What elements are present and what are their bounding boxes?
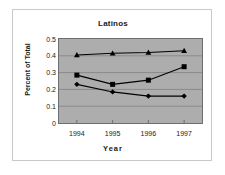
data-series-square: [74, 64, 186, 87]
series-plot: [59, 39, 202, 123]
series-line: [77, 51, 184, 55]
x-tick-label: 1997: [164, 130, 204, 137]
x-axis-label: Year: [13, 144, 213, 153]
x-tick-label: 1995: [93, 130, 133, 137]
data-point-square: [146, 78, 151, 83]
x-tick-label: 1996: [128, 130, 168, 137]
data-point-diamond: [74, 82, 79, 87]
x-axis-ticks: 1994199519961997: [58, 128, 203, 140]
chart-frame: Latinos Percent of Total 0.50.40.30.20.1…: [12, 9, 212, 161]
y-tick-label: 0.4: [30, 52, 56, 59]
x-tick-label: 1994: [57, 130, 97, 137]
data-point-square: [74, 73, 79, 78]
data-point-square: [110, 82, 115, 87]
series-line: [77, 84, 184, 96]
data-point-diamond: [146, 93, 151, 98]
plot-area: [58, 38, 203, 124]
data-point-square: [182, 64, 187, 69]
series-line: [77, 67, 184, 85]
data-point-diamond: [110, 89, 115, 94]
y-tick-label: 0: [30, 120, 56, 127]
figure-canvas: Latinos Percent of Total 0.50.40.30.20.1…: [0, 0, 225, 175]
y-axis-ticks: 0.50.40.30.20.10: [26, 38, 56, 124]
y-tick-label: 0.2: [30, 86, 56, 93]
y-tick-label: 0.1: [30, 103, 56, 110]
y-tick-label: 0.3: [30, 69, 56, 76]
data-point-diamond: [181, 93, 186, 98]
data-series-diamond: [74, 82, 187, 99]
y-tick-label: 0.5: [30, 36, 56, 43]
chart-title: Latinos: [13, 19, 213, 28]
